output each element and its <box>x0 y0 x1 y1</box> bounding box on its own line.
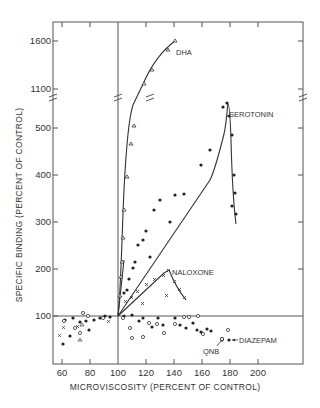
x-tick-label: 100 <box>110 367 126 378</box>
qnb-arrow <box>217 337 224 346</box>
y-tick-labels: 100 200 300 400 500 1100 1600 <box>30 35 51 321</box>
diazepam-arrow <box>227 338 238 341</box>
label-diazepam: DIAZEPAM <box>239 336 277 345</box>
serotonin-curve <box>118 104 236 316</box>
x-tick-label: 120 <box>138 367 154 378</box>
label-serotonin: SEROTONIN <box>229 110 273 119</box>
x-axis <box>62 359 258 364</box>
plot-frame <box>53 22 303 364</box>
serotonin-markers <box>122 101 237 294</box>
axis-break-marks <box>49 94 307 101</box>
label-naloxone: NALOXONE <box>172 268 214 277</box>
x-axis-title: MICROVISCOSITY (PERCENT OF CONTROL) <box>70 382 261 392</box>
x-tick-label: 60 <box>57 367 68 378</box>
x-tick-label: 140 <box>166 367 182 378</box>
y-axis-title: SPECIFIC BINDING (PERCENT OF CONTROL) <box>14 108 24 303</box>
label-qnb: QNB <box>203 347 219 356</box>
y-tick-label: 1600 <box>30 35 51 46</box>
x-tick-label: 200 <box>250 367 266 378</box>
y-tick-label: 1100 <box>31 83 51 94</box>
y-tick-label: 200 <box>35 263 51 274</box>
top-ticks <box>62 22 258 27</box>
y-tick-label: 400 <box>35 169 51 180</box>
x-tick-label: 80 <box>85 367 96 378</box>
dha-markers <box>118 39 177 297</box>
diazepam-markers <box>61 313 223 345</box>
x-tick-label: 180 <box>222 367 238 378</box>
y-tick-label: 300 <box>35 216 51 227</box>
misc-x-markers <box>58 320 110 337</box>
x-tick-label: 160 <box>194 367 210 378</box>
x-tick-labels: 60 80 100 120 140 160 180 200 <box>57 367 266 378</box>
label-dha: DHA <box>176 48 192 57</box>
y-tick-label: 100 <box>35 310 51 321</box>
chart: 60 80 100 120 140 160 180 200 MICROVISCO… <box>0 0 320 408</box>
y-tick-label: 500 <box>35 122 51 133</box>
